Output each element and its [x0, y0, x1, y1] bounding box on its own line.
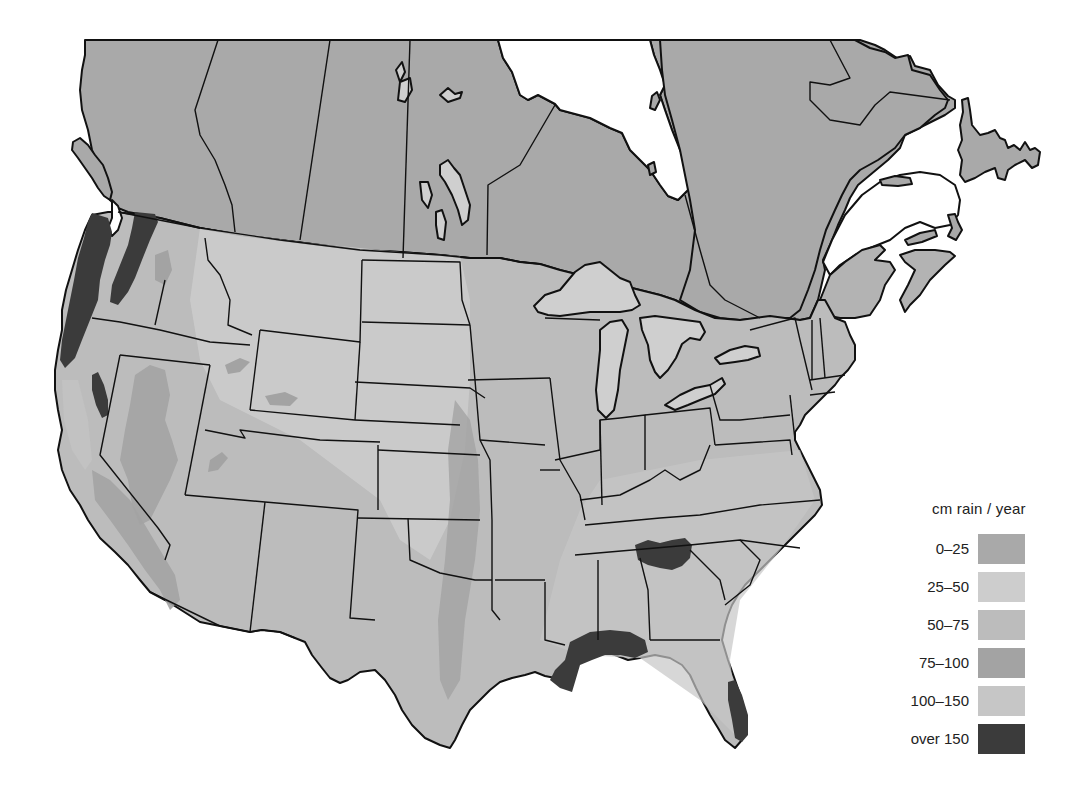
- legend-label: 75–100: [919, 654, 969, 671]
- legend-item-0-25: 0–25: [860, 534, 1025, 564]
- prince-edward-island: [905, 230, 937, 245]
- legend-label: 0–25: [936, 540, 969, 557]
- hudson-bay-island-2: [648, 162, 656, 175]
- legend-item-100-150: 100–150: [860, 686, 1025, 716]
- legend-title: cm rain / year: [932, 500, 1026, 517]
- legend-item-over-150: over 150: [860, 724, 1025, 754]
- cape-breton: [948, 214, 962, 240]
- legend-label: 50–75: [927, 616, 969, 633]
- legend-item-25-50: 25–50: [860, 572, 1025, 602]
- legend-item-50-75: 50–75: [860, 610, 1025, 640]
- anticosti-island: [880, 176, 912, 186]
- legend-item-75-100: 75–100: [860, 648, 1025, 678]
- legend-swatch: [978, 686, 1025, 716]
- legend-swatch: [978, 572, 1025, 602]
- newfoundland: [958, 98, 1040, 182]
- legend-swatch: [978, 648, 1025, 678]
- legend-swatch: [978, 724, 1025, 754]
- legend-label: 100–150: [911, 692, 969, 709]
- legend-label: over 150: [911, 730, 969, 747]
- legend: cm rain / year 0–25 25–50 50–75 75–100 1…: [860, 490, 1079, 770]
- legend-swatch: [978, 534, 1025, 564]
- lake-winnipegosis: [436, 210, 446, 240]
- legend-swatch: [978, 610, 1025, 640]
- nova-scotia: [900, 250, 955, 312]
- legend-label: 25–50: [927, 578, 969, 595]
